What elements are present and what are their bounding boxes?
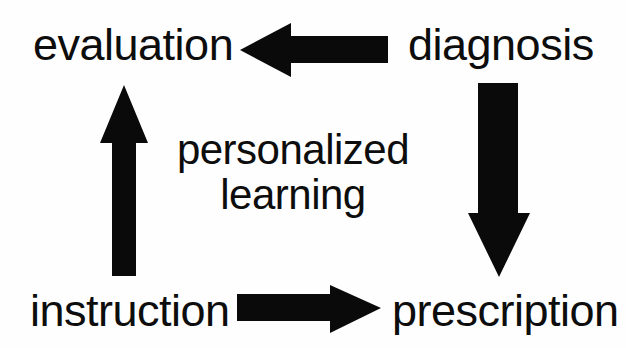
center-caption: personalized learning	[163, 128, 423, 218]
node-label-instruction: instruction	[30, 288, 230, 333]
center-caption-line-2: learning	[163, 173, 423, 218]
arrow-right-icon	[233, 283, 385, 341]
personalized-learning-cycle-diagram: evaluation diagnosis instruction prescri…	[0, 0, 626, 348]
node-label-diagnosis: diagnosis	[408, 22, 594, 67]
node-label-evaluation: evaluation	[33, 22, 233, 67]
arrow-up-icon	[96, 80, 158, 280]
node-label-prescription: prescription	[392, 288, 619, 333]
center-caption-line-1: personalized	[163, 128, 423, 173]
arrow-left-icon	[236, 18, 392, 82]
arrow-down-icon	[462, 78, 536, 282]
